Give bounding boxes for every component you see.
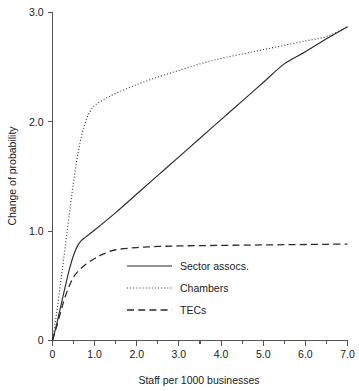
x-tick-label: 6.0: [298, 348, 313, 360]
y-tick-label: 1.0: [29, 225, 44, 237]
y-axis-ticks: [48, 13, 53, 341]
x-tick-label: 7.0: [340, 348, 355, 360]
x-axis-title: Staff per 1000 businesses: [138, 374, 259, 386]
chart-legend: Sector assocs.ChambersTECs: [127, 260, 249, 316]
x-axis-tick-labels: 01.02.03.04.05.06.07.0: [50, 348, 355, 360]
x-tick-label: 1.0: [87, 348, 102, 360]
x-tick-label: 5.0: [256, 348, 271, 360]
y-tick-label: 2.0: [29, 116, 44, 128]
legend-label-chambers: Chambers: [180, 282, 228, 294]
x-tick-label: 4.0: [214, 348, 229, 360]
line-chart: 01.02.03.04.05.06.07.0 01.02.03.0 Staff …: [0, 0, 359, 391]
x-tick-label: 2.0: [129, 348, 144, 360]
legend-label-sector-assocs: Sector assocs.: [180, 260, 249, 272]
y-axis-tick-labels: 01.02.03.0: [29, 6, 44, 346]
legend-label-tecs: TECs: [180, 304, 206, 316]
x-axis-ticks: [53, 341, 348, 346]
chart-container: 01.02.03.04.05.06.07.0 01.02.03.0 Staff …: [0, 0, 359, 391]
y-tick-label: 3.0: [29, 6, 44, 18]
y-axis-title: Change of probability: [6, 126, 18, 226]
y-tick-label: 0: [38, 334, 44, 346]
axes: [48, 13, 348, 346]
x-tick-label: 0: [50, 348, 56, 360]
x-tick-label: 3.0: [172, 348, 187, 360]
